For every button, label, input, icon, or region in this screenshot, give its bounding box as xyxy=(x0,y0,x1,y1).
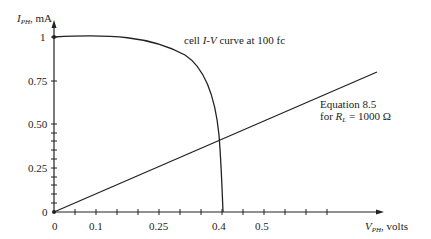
eq-line2-pre: for xyxy=(320,110,336,122)
x-tick-label-025: 0.25 xyxy=(149,220,168,232)
equation-annotation-line2: for RL = 1000 Ω xyxy=(320,110,391,126)
curve-annotation-post: curve at 100 fc xyxy=(217,34,285,46)
eq-line2-post: = 1000 Ω xyxy=(346,110,391,122)
origin-point xyxy=(52,210,56,214)
x-tick-label-05: 0.5 xyxy=(255,220,269,232)
curve-annotation: cell I-V curve at 100 fc xyxy=(184,34,285,46)
y-axis-label: IPH, mA xyxy=(17,12,52,28)
isc-point xyxy=(52,35,56,39)
curve-annotation-iv: I-V xyxy=(203,34,217,46)
x-axis-label: VPH, volts xyxy=(365,220,408,236)
x-axis-symbol: V xyxy=(365,220,372,232)
y-axis-unit: , mA xyxy=(30,12,52,24)
x-tick-label-01: 0.1 xyxy=(89,220,103,232)
y-axis-subscript: PH xyxy=(21,18,30,26)
x-axis-arrow-icon xyxy=(376,210,384,215)
x-tick-label-0: 0 xyxy=(52,220,58,232)
load-line xyxy=(54,72,377,212)
y-tick-label-1: 1 xyxy=(40,31,46,43)
iv-curve xyxy=(54,36,223,212)
y-tick-label-0: 0 xyxy=(42,206,48,218)
y-tick-label-075: 0.75 xyxy=(28,75,47,87)
x-axis-subscript: PH xyxy=(372,226,381,234)
x-axis-unit: , volts xyxy=(381,220,408,232)
x-tick-label-04: 0.4 xyxy=(212,220,226,232)
y-tick-label-025: 0.25 xyxy=(28,162,47,174)
y-axis-arrow-icon xyxy=(52,20,57,28)
y-tick-label-050: 0.50 xyxy=(28,118,47,130)
curve-annotation-pre: cell xyxy=(184,34,203,46)
equation-annotation-line1: Equation 8.5 xyxy=(320,98,376,110)
